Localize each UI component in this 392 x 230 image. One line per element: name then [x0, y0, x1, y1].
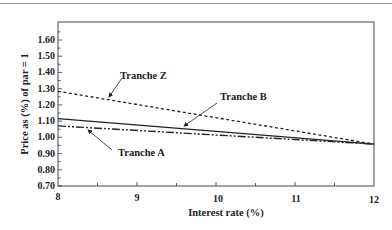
tranche-z-label: Tranche Z — [120, 70, 167, 81]
series-tranche-a-line — [58, 126, 374, 144]
y-tick-label: 1.50 — [38, 50, 56, 61]
series-tranche-z-line — [58, 91, 374, 144]
y-tick-label: 1.40 — [38, 66, 56, 77]
x-tick-label: 10 — [213, 193, 223, 204]
y-axis-ticks — [58, 32, 62, 186]
y-tick-label: 1.30 — [38, 83, 56, 94]
y-tick-label: 0.70 — [38, 180, 56, 191]
y-tick-label: 0.90 — [38, 148, 56, 159]
tranche-b-label: Tranche B — [220, 91, 267, 102]
y-tick-label: 0.80 — [38, 164, 56, 175]
x-tick-label: 12 — [369, 194, 379, 205]
x-tick-label: 9 — [135, 192, 140, 203]
x-tick-label: 8 — [56, 191, 61, 202]
tranche-a-arrow — [88, 130, 112, 150]
price-vs-interest-chart: 0.70 0.80 0.90 1.00 1.10 1.20 1.30 1.40 … — [0, 0, 392, 230]
series-tranche-b-line — [58, 119, 374, 145]
y-tick-label: 1.00 — [38, 131, 56, 142]
x-tick-label: 11 — [291, 193, 300, 204]
x-axis-labels: 8 9 10 11 12 — [56, 191, 380, 205]
y-tick-label: 1.10 — [38, 115, 56, 126]
tranche-a-label: Tranche A — [118, 147, 165, 158]
y-tick-label: 1.20 — [38, 99, 56, 110]
tranche-b-arrow — [184, 103, 217, 126]
x-axis-title: Interest rate (%) — [188, 207, 264, 219]
y-tick-label: 1.60 — [38, 34, 56, 45]
y-axis-title: Price as (%) of par = 1 — [19, 53, 31, 154]
x-axis-ticks — [98, 182, 335, 186]
y-axis-labels: 0.70 0.80 0.90 1.00 1.10 1.20 1.30 1.40 … — [38, 34, 56, 191]
